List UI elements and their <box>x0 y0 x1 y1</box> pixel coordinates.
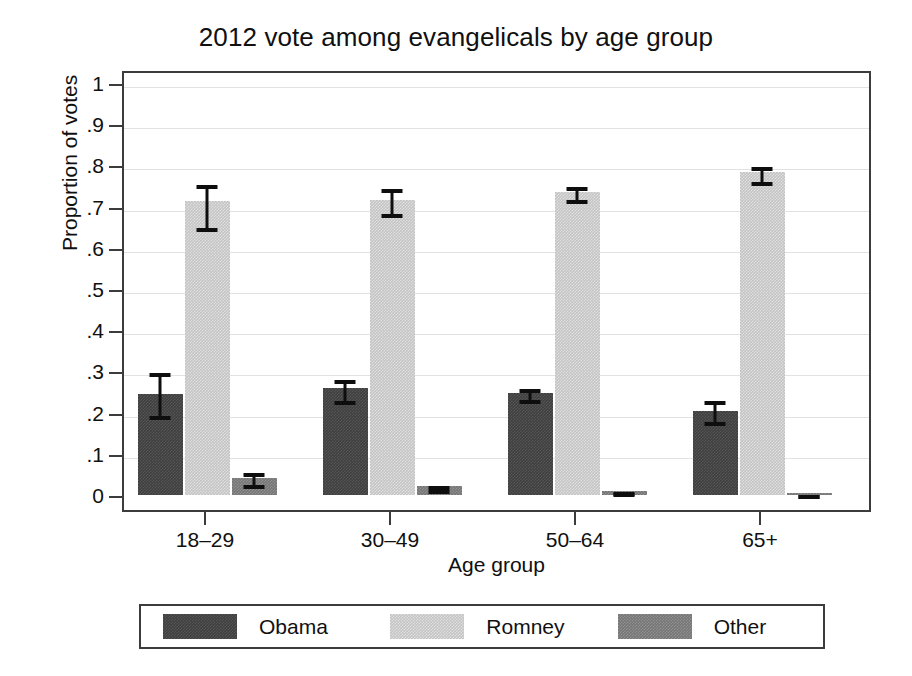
errorbar-cap <box>705 422 726 426</box>
tick-mark <box>109 125 122 127</box>
tick-mark <box>109 414 122 416</box>
y-axis: Proportion of votes 0.1.2.3.4.5.6.7.8.91 <box>60 71 122 512</box>
y-axis-tick-label: .4 <box>86 319 104 343</box>
y-axis-tick-label: .2 <box>86 402 104 426</box>
errorbar-stem <box>159 373 162 420</box>
tick-mark <box>759 512 761 525</box>
errorbar-cap <box>150 373 171 377</box>
errorbar-cap <box>752 167 773 171</box>
y-axis-tick-label: .1 <box>86 443 104 467</box>
legend-entry-obama[interactable]: Obama <box>141 614 368 639</box>
errorbar-romney-1 <box>370 189 415 217</box>
legend-entry-other[interactable]: Other <box>596 614 823 639</box>
y-axis-tick-label: 1 <box>92 72 104 96</box>
errorbar-stem <box>206 185 209 232</box>
gridline <box>124 87 869 88</box>
errorbar-cap <box>335 401 356 405</box>
errorbar-cap <box>520 400 541 404</box>
tick-mark <box>109 455 122 457</box>
errorbar-obama-1 <box>323 380 368 405</box>
x-axis-tick-label: 65+ <box>742 528 778 552</box>
errorbar-other-3 <box>787 495 832 499</box>
plot-area <box>122 71 871 512</box>
tick-mark <box>109 331 122 333</box>
errorbar-cap <box>335 380 356 384</box>
legend-entry-romney[interactable]: Romney <box>368 614 595 639</box>
tick-mark <box>109 372 122 374</box>
errorbar-other-1 <box>417 486 462 494</box>
errorbar-cap <box>197 185 218 189</box>
tick-mark <box>109 166 122 168</box>
bar-romney-0 <box>185 201 230 495</box>
tick-mark <box>389 512 391 525</box>
tick-mark <box>109 496 122 498</box>
errorbar-cap <box>244 473 265 477</box>
tick-mark <box>574 512 576 525</box>
errorbar-romney-2 <box>555 187 600 204</box>
y-axis-tick-label: .7 <box>86 196 104 220</box>
errorbar-cap <box>244 485 265 489</box>
bar-romney-3 <box>740 172 785 495</box>
tick-mark <box>109 84 122 86</box>
bar-romney-2 <box>555 192 600 495</box>
errorbar-cap <box>520 389 541 393</box>
y-axis-tick-label: .5 <box>86 278 104 302</box>
gridline <box>124 128 869 129</box>
errorbar-obama-2 <box>508 389 553 405</box>
tick-mark <box>204 512 206 525</box>
errorbar-cap <box>705 401 726 405</box>
tick-mark <box>109 208 122 210</box>
y-axis-title: Proportion of votes <box>58 75 82 251</box>
errorbar-cap <box>382 214 403 218</box>
chart-container: 2012 vote among evangelicals by age grou… <box>0 0 912 676</box>
y-axis-tick-label: .6 <box>86 237 104 261</box>
y-axis-tick-label: .8 <box>86 154 104 178</box>
errorbar-cap <box>567 187 588 191</box>
chart-legend: ObamaRomneyOther <box>139 604 825 649</box>
errorbar-cap <box>799 495 820 499</box>
errorbar-cap <box>382 189 403 193</box>
tick-mark <box>109 290 122 292</box>
legend-label: Obama <box>259 615 328 639</box>
errorbar-cap <box>567 200 588 204</box>
x-axis-tick-label: 50–64 <box>546 528 604 552</box>
legend-swatch-obama <box>163 614 237 639</box>
y-axis-tick-label: .3 <box>86 360 104 384</box>
errorbar-other-2 <box>602 492 647 496</box>
x-axis-tick-label: 30–49 <box>361 528 419 552</box>
y-axis-tick-label: .9 <box>86 113 104 137</box>
x-axis-title: Age group <box>122 553 871 577</box>
errorbar-other-0 <box>232 473 277 488</box>
legend-label: Romney <box>486 615 564 639</box>
bar-romney-1 <box>370 200 415 495</box>
x-axis-tick-label: 18–29 <box>176 528 234 552</box>
y-axis-tick-label: 0 <box>92 484 104 508</box>
errorbar-romney-3 <box>740 167 785 186</box>
legend-swatch-other <box>618 614 692 639</box>
errorbar-obama-0 <box>138 373 183 420</box>
errorbar-cap <box>614 493 635 497</box>
bar-obama-2 <box>508 393 553 495</box>
errorbar-obama-3 <box>693 401 738 426</box>
errorbar-cap <box>150 416 171 420</box>
errorbar-cap <box>429 490 450 494</box>
legend-label: Other <box>714 615 767 639</box>
errorbar-cap <box>752 182 773 186</box>
chart-title: 2012 vote among evangelicals by age grou… <box>0 22 912 53</box>
errorbar-romney-0 <box>185 185 230 232</box>
errorbar-cap <box>197 228 218 232</box>
tick-mark <box>109 249 122 251</box>
legend-swatch-romney <box>390 614 464 639</box>
